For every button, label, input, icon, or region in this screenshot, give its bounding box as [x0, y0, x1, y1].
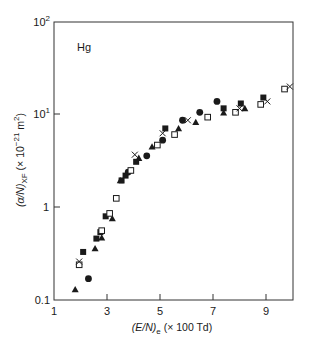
x-tick-9: 9 [263, 305, 269, 317]
data-point-open-square [155, 142, 161, 148]
data-point-filled-circle [214, 98, 221, 105]
x-axis-title: (E/N)e (× 100 Td) [132, 321, 212, 336]
data-point-filled-triangle [175, 125, 182, 131]
data-point-open-square [282, 86, 288, 92]
data-point-filled-square [221, 105, 227, 111]
data-point-open-square [99, 228, 105, 234]
element-annotation: Hg [77, 41, 91, 53]
data-point-open-square [205, 114, 211, 120]
scatter-chart: 102 101 1 0.1 13579 Hg (E/N)e (× 100 Td)… [0, 0, 310, 348]
y-tick-0.1: 0.1 [35, 294, 50, 306]
data-point-open-square [107, 211, 113, 217]
data-point-filled-circle [143, 152, 150, 159]
data-point-filled-square [80, 249, 86, 255]
data-point-open-square [258, 102, 264, 108]
y-tick-10: 101 [33, 106, 50, 120]
data-point-filled-triangle [92, 245, 99, 251]
data-point-open-square [113, 196, 119, 202]
data-points [72, 84, 293, 293]
y-tick-100: 102 [33, 14, 50, 28]
data-point-filled-square [133, 159, 139, 165]
y-axis: 102 101 1 0.1 [33, 14, 60, 306]
x-tick-5: 5 [157, 305, 163, 317]
x-tick-1: 1 [51, 305, 57, 317]
data-point-open-square [172, 132, 178, 138]
x-tick-7: 7 [210, 305, 216, 317]
x-axis: 13579 [51, 294, 269, 317]
y-tick-1: 1 [43, 201, 49, 213]
x-tick-3: 3 [104, 305, 110, 317]
data-point-filled-circle [85, 275, 92, 282]
data-point-filled-square [93, 236, 99, 242]
y-axis-title: (α/N)XF (× 10−21 m2) [12, 113, 29, 207]
data-point-cross [264, 98, 270, 104]
data-point-cross [132, 152, 138, 158]
data-point-filled-square [238, 100, 244, 106]
data-point-filled-circle [196, 109, 203, 116]
data-point-open-square [128, 168, 134, 174]
data-point-filled-triangle [192, 119, 199, 125]
data-point-filled-triangle [72, 286, 79, 292]
plot-frame [54, 22, 293, 300]
